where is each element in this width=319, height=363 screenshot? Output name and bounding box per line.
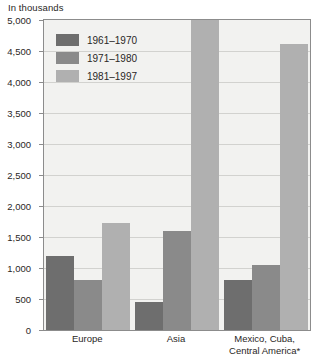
bar bbox=[252, 265, 280, 330]
y-axis-tick-label: 4,500 bbox=[0, 46, 31, 57]
axis-caption: In thousands bbox=[8, 2, 64, 13]
y-axis-tick-label: 0 bbox=[0, 325, 31, 336]
bar bbox=[102, 223, 130, 330]
legend-swatch-icon bbox=[56, 70, 79, 82]
bar bbox=[46, 256, 74, 330]
legend-item-label: 1971–1980 bbox=[87, 53, 137, 64]
y-axis-tick-label: 2,500 bbox=[0, 170, 31, 181]
legend-item-label: 1981–1997 bbox=[87, 71, 137, 82]
legend-item: 1981–1997 bbox=[56, 67, 137, 85]
x-axis-category-label: Europe bbox=[43, 333, 132, 345]
x-axis-category-labels: EuropeAsiaMexico, Cuba, Central America* bbox=[43, 333, 311, 363]
y-axis-tick-label: 500 bbox=[0, 294, 31, 305]
legend-item: 1971–1980 bbox=[56, 49, 137, 67]
bar-group bbox=[224, 20, 308, 330]
bar-chart-figure: In thousands 5,0004,5004,0003,5003,0002,… bbox=[0, 0, 319, 363]
bar-group bbox=[135, 20, 219, 330]
y-axis-tick-label: 1,000 bbox=[0, 263, 31, 274]
x-axis-category-label: Asia bbox=[132, 333, 221, 345]
bar bbox=[280, 44, 308, 330]
bar bbox=[135, 302, 163, 330]
legend-item: 1961–1970 bbox=[56, 31, 137, 49]
bar bbox=[191, 20, 219, 330]
x-axis-category-label: Mexico, Cuba, Central America* bbox=[220, 333, 309, 356]
y-axis-tick-label: 2,000 bbox=[0, 201, 31, 212]
bar bbox=[163, 231, 191, 330]
y-axis-tick-label: 4,000 bbox=[0, 77, 31, 88]
legend-swatch-icon bbox=[56, 34, 79, 46]
bar bbox=[74, 280, 102, 330]
gridline bbox=[44, 330, 310, 331]
legend-item-label: 1961–1970 bbox=[87, 35, 137, 46]
y-axis-tick-label: 5,000 bbox=[0, 15, 31, 26]
bar bbox=[224, 280, 252, 330]
y-axis-tick-label: 3,000 bbox=[0, 139, 31, 150]
legend-swatch-icon bbox=[56, 52, 79, 64]
chart-legend: 1961–19701971–19801981–1997 bbox=[56, 31, 137, 85]
y-axis-tick-label: 3,500 bbox=[0, 108, 31, 119]
y-axis-tick-label: 1,500 bbox=[0, 232, 31, 243]
